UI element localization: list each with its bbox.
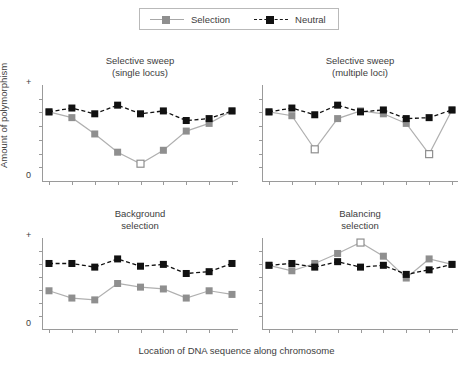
data-point-marker — [137, 263, 144, 270]
data-point-marker — [334, 115, 341, 122]
x-axis-tick — [118, 181, 119, 185]
x-axis-tick — [292, 329, 293, 333]
data-point-marker — [68, 105, 75, 112]
data-point-marker — [46, 287, 53, 294]
data-point-marker — [68, 295, 75, 302]
y-axis-label: Amount of polymorphism — [0, 63, 9, 168]
x-axis-tick — [163, 329, 164, 333]
data-point-marker — [426, 114, 433, 121]
x-axis-tick — [338, 181, 339, 185]
data-point-marker — [380, 262, 387, 269]
figure-canvas: Selection Neutral Amount of polymorphism… — [0, 0, 473, 367]
x-axis-tick — [72, 329, 73, 333]
panel-title-selective-sweep-single-locus: Selective sweep (single locus) — [42, 55, 238, 79]
data-point-marker-selected-locus — [137, 160, 144, 167]
x-axis-tick — [186, 181, 187, 185]
data-point-marker — [311, 264, 318, 271]
legend-item-selection: Selection — [150, 9, 230, 29]
panel-title-line2: (multiple loci) — [332, 67, 388, 78]
panel-selective-sweep-multiple-loci: Selective sweep (multiple loci) — [262, 85, 458, 182]
data-point-marker — [403, 271, 410, 278]
x-axis-tick — [72, 181, 73, 185]
x-axis-tick — [232, 329, 233, 333]
x-axis-tick — [163, 181, 164, 185]
x-axis-tick — [95, 181, 96, 185]
data-point-marker — [160, 107, 167, 114]
legend-swatch-neutral-icon — [254, 14, 288, 25]
panel-balancing-selection: Balancing selection — [262, 238, 458, 330]
data-point-marker — [288, 112, 295, 119]
panel-title-selective-sweep-multiple-loci: Selective sweep (multiple loci) — [262, 55, 458, 79]
panel-title-balancing-selection: Balancing selection — [262, 208, 458, 232]
legend-swatch-selection-icon — [150, 14, 184, 25]
series-line-selection — [269, 243, 452, 278]
x-axis-tick — [141, 329, 142, 333]
x-axis-tick — [292, 181, 293, 185]
series-line-selection — [269, 110, 452, 154]
x-axis-tick — [361, 181, 362, 185]
data-point-marker — [46, 108, 53, 115]
panel-title-line1: Background — [115, 208, 166, 219]
x-axis-tick — [209, 181, 210, 185]
panel-title-line1: Balancing — [339, 208, 381, 219]
data-point-marker — [68, 260, 75, 267]
data-point-marker — [160, 285, 167, 292]
data-point-marker — [288, 105, 295, 112]
legend-label-selection: Selection — [191, 14, 230, 25]
data-point-marker — [206, 287, 213, 294]
x-axis-tick — [49, 329, 50, 333]
x-axis-tick — [141, 181, 142, 185]
x-axis-tick — [269, 329, 270, 333]
panel-title-line2: (single locus) — [112, 67, 168, 78]
x-axis-tick — [186, 329, 187, 333]
panel-title-line2: selection — [121, 220, 159, 231]
data-point-marker — [380, 253, 387, 260]
data-point-marker — [206, 268, 213, 275]
data-point-marker — [183, 295, 190, 302]
data-point-marker — [46, 260, 53, 267]
legend: Selection Neutral — [139, 8, 339, 30]
x-axis-tick — [95, 329, 96, 333]
data-point-marker — [357, 264, 364, 271]
panel-selective-sweep-single-locus: Selective sweep (single locus) — [42, 85, 238, 182]
plot-area — [262, 238, 458, 330]
data-point-marker — [311, 111, 318, 118]
panel-title-line2: selection — [341, 220, 379, 231]
data-point-marker — [91, 264, 98, 271]
y-axis-top-cap-bottomleft: + — [26, 230, 31, 240]
data-point-marker — [114, 102, 121, 109]
x-axis-tick — [452, 181, 453, 185]
panel-title-line1: Selective sweep — [326, 55, 395, 66]
x-axis-tick — [452, 329, 453, 333]
data-point-marker — [334, 102, 341, 109]
data-point-marker — [137, 284, 144, 291]
data-point-marker — [183, 128, 190, 135]
y-axis-bottom-cap-topleft: 0 — [26, 170, 31, 180]
x-axis-tick — [232, 181, 233, 185]
x-axis-tick — [269, 181, 270, 185]
x-axis-tick — [406, 329, 407, 333]
x-axis-tick — [383, 181, 384, 185]
data-point-marker — [114, 280, 121, 287]
x-axis-label: Location of DNA sequence along chromosom… — [0, 345, 473, 356]
data-point-marker — [266, 262, 273, 269]
data-point-marker — [137, 110, 144, 117]
data-point-marker — [160, 147, 167, 154]
data-point-marker-selected-locus — [311, 146, 318, 153]
y-axis-bottom-cap-bottomleft: 0 — [26, 318, 31, 328]
legend-item-neutral: Neutral — [254, 9, 326, 29]
data-point-marker — [334, 250, 341, 257]
plot-area — [42, 238, 238, 330]
data-point-marker — [449, 106, 456, 113]
data-point-marker — [334, 258, 341, 265]
data-point-marker — [403, 115, 410, 122]
data-point-marker — [288, 260, 295, 267]
data-point-marker — [114, 255, 121, 262]
data-point-marker — [206, 115, 213, 122]
plot-area — [262, 85, 458, 182]
data-point-marker — [91, 130, 98, 137]
x-axis-tick — [315, 329, 316, 333]
plot-area — [42, 85, 238, 182]
data-point-marker — [229, 291, 236, 298]
data-point-marker-selected-locus — [426, 151, 433, 158]
